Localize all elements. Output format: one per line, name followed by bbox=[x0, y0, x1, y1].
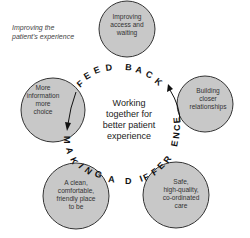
svg-text:A: A bbox=[108, 174, 116, 185]
feedback-arc-label: F E E D B A C K bbox=[75, 62, 165, 90]
circle-label-clean-place: A clean, comfortable, friendly place to … bbox=[48, 179, 104, 211]
circle-label-safe-care: Safe, high-quality, co-ordinated care bbox=[153, 178, 209, 210]
circle-label-closer-relationships: Building closer relationships bbox=[180, 87, 236, 111]
circle-label-more-information: More information more choice bbox=[18, 84, 68, 116]
title-line: patient's experience bbox=[12, 33, 74, 42]
label-line: comfortable, bbox=[48, 187, 104, 195]
diagram-title: Improving the patient's experience bbox=[12, 24, 74, 41]
center-label: Working together for better patient expe… bbox=[91, 98, 167, 142]
label-line: relationships bbox=[180, 103, 236, 111]
label-line: more bbox=[18, 100, 68, 108]
svg-text:N: N bbox=[171, 132, 182, 139]
svg-text:C: C bbox=[144, 69, 155, 81]
circle-label-access-waiting: Improving access and waiting bbox=[99, 13, 155, 37]
label-line: information bbox=[18, 92, 68, 100]
svg-text:E: E bbox=[82, 70, 92, 82]
label-line: A clean, bbox=[48, 179, 104, 187]
svg-text:K: K bbox=[153, 76, 165, 88]
svg-text:M: M bbox=[62, 136, 72, 144]
label-line: care bbox=[153, 202, 209, 210]
label-line: closer bbox=[180, 95, 236, 103]
label-line: More bbox=[18, 84, 68, 92]
svg-text:D: D bbox=[105, 62, 113, 73]
label-line: friendly place bbox=[48, 195, 104, 203]
label-line: waiting bbox=[99, 29, 155, 37]
label-line: co-ordinated bbox=[153, 194, 209, 202]
svg-text:A: A bbox=[134, 64, 143, 75]
label-line: to be bbox=[48, 203, 104, 211]
svg-text:B: B bbox=[125, 62, 133, 73]
svg-text:C: C bbox=[172, 124, 182, 131]
svg-text:A: A bbox=[64, 147, 75, 156]
svg-text:E: E bbox=[92, 64, 101, 75]
svg-text:D: D bbox=[125, 176, 132, 186]
svg-text:E: E bbox=[169, 140, 180, 148]
label-line: Building bbox=[180, 87, 236, 95]
label-line: high-quality, bbox=[153, 186, 209, 194]
label-line: access and bbox=[99, 21, 155, 29]
label-line: Safe, bbox=[153, 178, 209, 186]
center-line: better patient bbox=[91, 120, 167, 131]
label-line: choice bbox=[18, 108, 68, 116]
center-line: Working bbox=[91, 98, 167, 109]
title-line: Improving the bbox=[12, 24, 74, 33]
center-line: experience bbox=[91, 131, 167, 142]
center-line: together for bbox=[91, 109, 167, 120]
improving-patient-experience-diagram: F E E D B A C K M A K I N G A D I F F E … bbox=[0, 0, 250, 238]
label-line: Improving bbox=[99, 13, 155, 21]
svg-text:E: E bbox=[172, 117, 182, 124]
